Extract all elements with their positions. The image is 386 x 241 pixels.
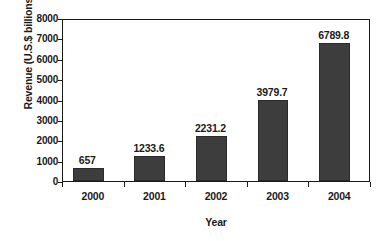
x-axis-tick-label: 2002	[185, 190, 247, 202]
bar	[196, 136, 227, 181]
x-axis-tick-label: 2000	[62, 190, 124, 202]
bar-value-label: 657	[50, 155, 125, 166]
x-axis-tick-mark	[124, 182, 125, 187]
y-axis-tick-label: 7000	[22, 34, 58, 44]
y-axis-tick-label: 8000	[22, 14, 58, 24]
bar-chart-figure: Revenue (U.S.$ billions) 010002000300040…	[0, 0, 386, 241]
y-axis-tick-label: 0	[22, 177, 58, 187]
x-axis-tick-mark	[370, 182, 371, 187]
y-axis-tick-label: 4000	[22, 96, 58, 106]
bar	[258, 100, 289, 181]
x-axis-tick-mark	[62, 182, 63, 187]
bar-value-label: 2231.2	[173, 123, 248, 134]
bar-value-label: 1233.6	[111, 143, 186, 154]
x-axis-tick-mark	[185, 182, 186, 187]
bar-value-label: 6789.8	[296, 30, 371, 41]
y-axis-tick-group: 010002000300040005000600070008000	[22, 0, 58, 241]
x-axis-tick-mark	[247, 182, 248, 187]
bar	[134, 156, 165, 181]
x-axis-tick-mark	[308, 182, 309, 187]
y-axis-tick-label: 3000	[22, 116, 58, 126]
x-axis-tick-label: 2004	[308, 190, 370, 202]
x-axis-tick-label: 2003	[247, 190, 309, 202]
y-axis-tick-label: 2000	[22, 136, 58, 146]
y-axis-tick-label: 6000	[22, 55, 58, 65]
x-axis-title: Year	[62, 216, 370, 228]
bar-value-label: 3979.7	[235, 87, 310, 98]
y-axis-tick-label: 5000	[22, 75, 58, 85]
bar	[319, 43, 350, 181]
x-axis-tick-label: 2001	[124, 190, 186, 202]
bar	[73, 168, 104, 181]
